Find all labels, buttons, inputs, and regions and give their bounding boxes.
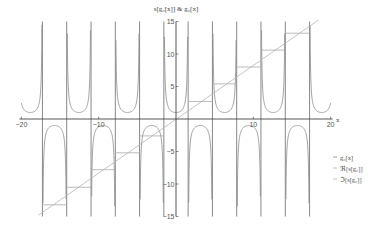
y-tick-label: −5	[167, 148, 175, 155]
g0-curve-segment	[43, 126, 66, 204]
y-axis-title: s[g₀[x]] & g₀[x]	[154, 5, 199, 13]
x-tick-label: 10	[249, 121, 257, 128]
x-tick-label: 20	[327, 121, 335, 128]
g0-curve-segment	[262, 30, 285, 112]
legend-item-imag: ℑ[s[g₀]]	[333, 176, 362, 184]
g0-curve-segment	[21, 25, 42, 112]
y-tick-label: −15	[163, 213, 175, 220]
y-tick-label: 10	[167, 51, 175, 58]
legend-label: g₀[x]	[340, 154, 353, 162]
g0-curve-segment	[237, 126, 260, 207]
legend-item-real: ℜ[s[g₀]]	[333, 165, 363, 173]
y-tick-label: 15	[167, 18, 175, 25]
g0-curve-segment	[310, 25, 331, 112]
g0-curve-segment	[189, 126, 212, 203]
legend-label: ℜ[s[g₀]]	[340, 165, 363, 173]
x-tick-label: −10	[93, 121, 105, 128]
legend: g₀[x] ℜ[s[g₀]] ℑ[s[g₀]]	[333, 154, 363, 184]
x-tick-label: −20	[15, 121, 27, 128]
legend-item-g0: g₀[x]	[333, 154, 353, 162]
g0-curve-segment	[67, 30, 90, 112]
x-axis-title: x	[336, 116, 340, 124]
y-tick-label: 5	[171, 83, 175, 90]
chart: −20−10102015105−5−10−15 s[g₀[x]] & g₀[x]…	[0, 0, 382, 225]
g0-curve-segment	[140, 126, 163, 203]
imag-line	[38, 20, 318, 215]
g0-curve-segment	[286, 126, 309, 204]
g0-curve-segment	[92, 126, 115, 207]
legend-label: ℑ[s[g₀]]	[340, 176, 362, 184]
g0-curve-segment	[213, 34, 236, 113]
y-tick-label: −10	[163, 181, 175, 188]
g0-curve-segment	[116, 34, 139, 113]
